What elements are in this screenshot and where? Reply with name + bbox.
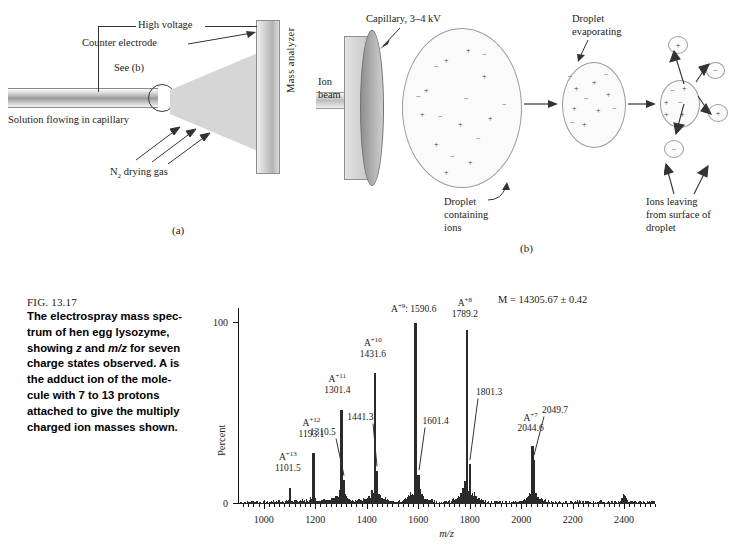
hv-wire-horizontal-right: [205, 26, 257, 27]
plot-area: 10001200140016001800200022002400 0100 A+…: [238, 308, 655, 504]
x-tick-minor: [552, 504, 553, 507]
see-b-label: See (b): [114, 62, 144, 74]
capillary-disc: [360, 30, 384, 186]
x-tick-minor: [269, 504, 270, 507]
charge-minus: −: [584, 94, 589, 103]
x-tick-minor: [495, 504, 496, 507]
spectrum-peak: [289, 488, 292, 504]
mass-analyzer-label: Mass analyzer: [285, 20, 297, 100]
y-tick: [233, 503, 239, 504]
charge-plus: +: [592, 78, 597, 87]
x-tick-major: [264, 504, 265, 509]
x-tick-minor: [392, 504, 393, 507]
x-tick-minor: [480, 504, 481, 507]
x-tick-minor: [439, 504, 440, 507]
arrow-evaporation-1: [524, 98, 560, 110]
ion-beam-label-line2: beam: [318, 89, 341, 101]
x-tick-minor: [274, 504, 275, 507]
drying-gas-arrows: [132, 118, 214, 164]
peak-label-A+9: A+9: 1590.6: [391, 303, 436, 315]
droplet-ions-line3: ions: [444, 222, 462, 234]
panel-b-droplet-mechanism: Ion beam Capillary, 3–4 kV + + + + + + +…: [316, 0, 687, 268]
charge-plus: +: [482, 72, 487, 81]
satellite-label: 1310.5: [310, 427, 336, 438]
x-tick-minor: [526, 504, 527, 507]
droplet-ions-arrow: [486, 182, 512, 204]
x-tick-minor: [547, 504, 548, 507]
x-tick-minor: [372, 504, 373, 507]
x-tick-minor: [454, 504, 455, 507]
x-tick-major: [573, 504, 574, 509]
x-tick-label: 2000: [511, 514, 531, 526]
droplet-ions-line1: Droplet: [444, 196, 476, 208]
droplet-evap-arrow: [574, 40, 596, 64]
x-tick-minor: [475, 504, 476, 507]
x-tick-minor: [336, 504, 337, 507]
ions-leaving-line3: droplet: [646, 222, 676, 234]
x-tick-minor: [588, 504, 589, 507]
x-tick-minor: [537, 504, 538, 507]
peak-label-A+13: A+131101.5: [275, 451, 301, 473]
charge-plus: +: [582, 120, 587, 129]
x-tick-minor: [284, 504, 285, 507]
charge-minus: −: [438, 112, 443, 121]
charge-minus: −: [568, 72, 573, 81]
peak-label-A+8: A+81789.2: [452, 297, 478, 319]
charge-plus: +: [572, 104, 577, 113]
y-tick-label: 100: [198, 317, 228, 329]
x-tick-minor: [655, 504, 656, 507]
x-tick-label: 2400: [614, 514, 634, 526]
x-tick-minor: [614, 504, 615, 507]
charge-plus: +: [424, 86, 429, 95]
x-tick-minor: [640, 504, 641, 507]
x-tick-minor: [310, 504, 311, 507]
x-tick-minor: [331, 504, 332, 507]
mass-spectrum-chart: 10001200140016001800200022002400 0100 A+…: [0, 286, 687, 552]
x-tick-label: 1000: [254, 514, 274, 526]
charge-plus: +: [574, 84, 579, 93]
hv-wire-horizontal-left: [98, 26, 136, 27]
x-tick-minor: [629, 504, 630, 507]
charge-plus: +: [434, 140, 439, 149]
x-tick-minor: [403, 504, 404, 507]
droplet-evap-line2: evaporating: [572, 26, 622, 38]
ejection-arrows: [654, 34, 732, 158]
satellite-label: 1441.3: [347, 412, 373, 423]
x-tick-major: [470, 504, 471, 509]
counter-electrode-label: Counter electrode: [82, 37, 157, 49]
panel-a-label: (a): [172, 224, 184, 237]
x-tick-minor: [598, 504, 599, 507]
ion-beam-label-line1: Ion: [318, 76, 332, 88]
peak-label-A+10: A+101431.6: [360, 337, 386, 359]
solution-flow-label: Solution flowing in capillary: [8, 114, 129, 126]
x-axis-title: m/z: [439, 528, 454, 540]
counter-electrode-arrow: [186, 30, 262, 52]
x-tick-minor: [305, 504, 306, 507]
capillary-kv-label: Capillary, 3–4 kV: [366, 13, 441, 25]
x-tick-label: 1200: [305, 514, 325, 526]
capillary-arrow: [376, 26, 406, 52]
x-tick-minor: [356, 504, 357, 507]
charge-minus: −: [604, 70, 609, 79]
x-tick-minor: [326, 504, 327, 507]
x-tick-minor: [259, 504, 260, 507]
y-tick: [233, 322, 239, 323]
y-tick-label: 0: [198, 498, 228, 510]
charge-minus: −: [464, 94, 469, 103]
x-tick-minor: [289, 504, 290, 507]
capillary-tube: [8, 88, 158, 108]
x-tick-label: 1800: [460, 514, 480, 526]
spectrum-peak: [414, 323, 417, 504]
charge-plus: +: [466, 46, 471, 55]
droplet-ions-line2: containing: [444, 209, 488, 221]
ions-leaving-arrows: [664, 162, 716, 196]
x-tick-major: [521, 504, 522, 509]
x-tick-minor: [634, 504, 635, 507]
x-tick-minor: [398, 504, 399, 507]
charge-minus: −: [416, 92, 421, 101]
x-tick-minor: [567, 504, 568, 507]
x-tick-minor: [449, 504, 450, 507]
panel-b-label: (b): [520, 242, 533, 255]
hv-wire-vertical: [98, 26, 99, 92]
spectrum-peak: [469, 464, 471, 504]
